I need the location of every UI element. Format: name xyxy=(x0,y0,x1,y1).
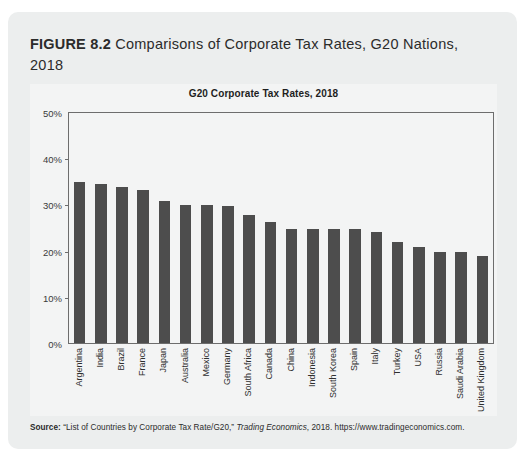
bar xyxy=(137,190,149,344)
bar-slot xyxy=(196,113,217,344)
x-label-slot: China xyxy=(280,346,301,414)
chart-panel: G20 Corporate Tax Rates, 2018 50%40%30%2… xyxy=(30,84,497,416)
bar xyxy=(307,229,319,345)
x-label-slot: South Africa xyxy=(238,346,259,414)
x-label-slot: Canada xyxy=(259,346,280,414)
bar xyxy=(328,229,340,345)
x-axis-tick-label: Indonesia xyxy=(307,348,317,387)
bar xyxy=(201,205,213,344)
y-axis-tick-label: 50% xyxy=(43,108,62,119)
x-label-slot: Argentina xyxy=(68,346,89,414)
x-axis-tick-label: Turkey xyxy=(392,348,402,375)
x-axis-tick-label: South Korea xyxy=(328,348,338,398)
y-axis-tick-label: 20% xyxy=(43,246,62,257)
bar xyxy=(74,182,86,344)
x-axis-tick-label: China xyxy=(286,348,296,372)
x-axis-tick-label: India xyxy=(95,348,105,368)
source-text-before: “List of Countries by Corporate Tax Rate… xyxy=(61,423,237,432)
bar xyxy=(180,205,192,344)
source-publication: Trading Economics xyxy=(236,423,306,432)
bar-slot xyxy=(302,113,323,344)
x-axis-tick-label: South Africa xyxy=(243,348,253,397)
bar-series xyxy=(69,113,493,344)
bar xyxy=(95,184,107,344)
bar xyxy=(455,252,467,344)
x-label-slot: Germany xyxy=(216,346,237,414)
bar xyxy=(159,201,171,344)
bar xyxy=(116,187,128,344)
x-axis-tick-label: Australia xyxy=(180,348,190,383)
x-axis-tick-label: Argentina xyxy=(74,348,84,387)
x-label-slot: Saudi Arabia xyxy=(450,346,471,414)
x-axis-tick-label: Russia xyxy=(434,348,444,376)
bar xyxy=(434,252,446,344)
bar-slot xyxy=(345,113,366,344)
bar xyxy=(243,215,255,344)
x-label-slot: Australia xyxy=(174,346,195,414)
bar-slot xyxy=(281,113,302,344)
bar xyxy=(371,232,383,344)
figure-heading: FIGURE 8.2 Comparisons of Corporate Tax … xyxy=(30,34,480,76)
x-axis-tick-label: Brazil xyxy=(116,348,126,371)
bar-slot xyxy=(387,113,408,344)
y-axis-tick-label: 40% xyxy=(43,154,62,165)
x-label-slot: USA xyxy=(407,346,428,414)
x-axis-tick-label: Saudi Arabia xyxy=(455,348,465,399)
x-axis-tick-label: Germany xyxy=(222,348,232,385)
y-axis-tick-label: 0% xyxy=(48,339,62,350)
plot-frame: 50%40%30%20%10%0% xyxy=(68,112,494,344)
y-axis-tick-label: 30% xyxy=(43,200,62,211)
figure-label: FIGURE 8.2 xyxy=(30,36,111,52)
x-label-slot: Spain xyxy=(344,346,365,414)
x-label-slot: Russia xyxy=(428,346,449,414)
x-label-slot: United Kingdom xyxy=(471,346,492,414)
x-label-slot: South Korea xyxy=(322,346,343,414)
bar-slot xyxy=(323,113,344,344)
x-label-slot: Indonesia xyxy=(301,346,322,414)
bar xyxy=(413,247,425,344)
x-axis-tick-label: USA xyxy=(413,348,423,367)
x-label-slot: Mexico xyxy=(195,346,216,414)
x-axis-tick-label: United Kingdom xyxy=(476,348,486,412)
bar-slot xyxy=(239,113,260,344)
y-axis-tick-label: 10% xyxy=(43,292,62,303)
figure-card: FIGURE 8.2 Comparisons of Corporate Tax … xyxy=(8,12,517,449)
bar-slot xyxy=(429,113,450,344)
x-label-slot: Italy xyxy=(365,346,386,414)
bar-slot xyxy=(366,113,387,344)
x-axis-tick-label: Spain xyxy=(349,348,359,371)
bar-slot xyxy=(111,113,132,344)
source-text-after: , 2018. https://www.tradingeconomics.com… xyxy=(307,423,465,432)
x-label-slot: India xyxy=(89,346,110,414)
x-label-slot: Turkey xyxy=(386,346,407,414)
bar xyxy=(349,229,361,345)
bar-slot xyxy=(133,113,154,344)
x-axis-tick-label: Mexico xyxy=(201,348,211,377)
bar xyxy=(392,242,404,344)
x-axis-labels: ArgentinaIndiaBrazilFranceJapanAustralia… xyxy=(68,346,492,414)
x-axis-tick-label: Italy xyxy=(370,348,380,365)
bar-slot xyxy=(408,113,429,344)
x-label-slot: Brazil xyxy=(110,346,131,414)
x-axis-tick-label: Japan xyxy=(158,348,168,373)
bar-slot xyxy=(451,113,472,344)
chart-title: G20 Corporate Tax Rates, 2018 xyxy=(30,88,497,99)
bar xyxy=(286,229,298,345)
x-label-slot: France xyxy=(132,346,153,414)
bar-slot xyxy=(90,113,111,344)
bar-slot xyxy=(69,113,90,344)
bar-slot xyxy=(217,113,238,344)
bar xyxy=(222,206,234,344)
x-label-slot: Japan xyxy=(153,346,174,414)
x-axis-tick-label: France xyxy=(137,348,147,376)
bar-slot xyxy=(154,113,175,344)
bar-slot xyxy=(472,113,493,344)
bar xyxy=(265,222,277,344)
bar xyxy=(477,256,489,344)
bar-slot xyxy=(260,113,281,344)
bar-slot xyxy=(175,113,196,344)
x-axis-tick-label: Canada xyxy=(264,348,274,380)
source-label: Source: xyxy=(30,423,61,432)
plot-area: 50%40%30%20%10%0% xyxy=(69,113,493,344)
x-axis-line xyxy=(68,343,494,344)
